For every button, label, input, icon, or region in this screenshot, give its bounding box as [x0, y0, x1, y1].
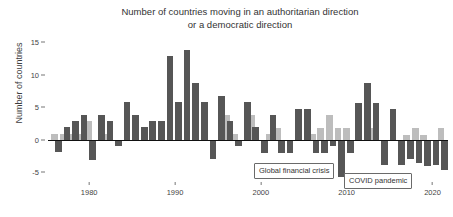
- bar-1989-dark: [167, 56, 174, 140]
- bar-2015-dark: [390, 109, 397, 139]
- bar-2008-light: [326, 115, 333, 140]
- bar-2016-dark: [398, 140, 405, 165]
- bar-1982-dark: [107, 121, 114, 140]
- bar-2018-dark: [416, 140, 423, 163]
- bar-2013-dark: [373, 103, 380, 140]
- bar-2017-dark: [407, 140, 414, 159]
- chart-figure: Number of countries moving in an authori…: [0, 0, 453, 217]
- x-tick-2000: 2000: [253, 182, 270, 197]
- bar-1978-dark: [72, 121, 79, 140]
- bar-2021-dark: [441, 140, 448, 170]
- bar-2003-dark: [287, 140, 294, 153]
- bar-2019-dark: [424, 140, 431, 166]
- zero-axis-line: [48, 140, 448, 141]
- bar-1994-dark: [210, 140, 217, 159]
- bar-2010-light: [343, 128, 350, 140]
- bar-2000-dark: [261, 140, 268, 153]
- bar-1991-dark: [184, 50, 191, 140]
- bar-2004-dark: [295, 109, 302, 140]
- y-tick-10: 10: [31, 70, 48, 79]
- bar-1996-dark: [227, 121, 234, 140]
- bar-2002-dark: [278, 140, 285, 153]
- bar-1990-dark: [175, 102, 182, 140]
- annotation-global-financial-crisis: Global financial crisis: [254, 163, 334, 179]
- bar-1980-dark: [89, 140, 96, 160]
- bar-1992-dark: [192, 83, 199, 140]
- bar-2020-dark: [433, 140, 440, 165]
- bar-1993-dark: [201, 102, 208, 140]
- bar-1995-dark: [218, 96, 225, 140]
- x-tick-1990: 1990: [167, 182, 184, 197]
- bar-1979-dark: [81, 115, 88, 140]
- bar-2014-dark: [381, 140, 388, 165]
- bar-2007-light: [317, 128, 324, 140]
- bar-1999-dark: [252, 127, 259, 139]
- bar-1985-dark: [132, 115, 139, 140]
- plot-area: 151050-5: [48, 36, 448, 182]
- y-tick-0: 0: [35, 135, 48, 144]
- y-tick--5: -5: [32, 168, 48, 177]
- bar-1988-dark: [158, 121, 165, 140]
- bar-1977-dark: [64, 127, 71, 139]
- bar-2021-light: [438, 128, 445, 140]
- y-tick-15: 15: [31, 38, 48, 47]
- x-tick-2020: 2020: [424, 182, 441, 197]
- bar-1998-dark: [244, 102, 251, 140]
- y-tick-5: 5: [35, 103, 48, 112]
- bar-2010-dark: [347, 140, 354, 153]
- bar-2009-dark: [338, 140, 345, 178]
- bar-2018-light: [412, 128, 419, 140]
- annotation-covid-pandemic: COVID pandemic: [344, 173, 412, 189]
- bar-2005-dark: [304, 109, 311, 140]
- bar-1981-dark: [98, 115, 105, 140]
- x-tick-1980: 1980: [81, 182, 98, 197]
- bar-2011-dark: [355, 103, 362, 140]
- bar-1984-dark: [124, 102, 131, 140]
- y-axis-label: Number of countries: [14, 28, 24, 138]
- bar-2006-dark: [313, 140, 320, 153]
- bar-2007-dark: [321, 140, 328, 153]
- bar-1987-dark: [149, 121, 156, 140]
- chart-title: Number of countries moving in an authori…: [45, 6, 435, 31]
- bar-1986-dark: [141, 127, 148, 139]
- bar-2012-dark: [364, 83, 371, 139]
- bar-1976-dark: [55, 140, 62, 152]
- bar-2009-light: [335, 128, 342, 140]
- bar-2001-dark: [270, 115, 277, 140]
